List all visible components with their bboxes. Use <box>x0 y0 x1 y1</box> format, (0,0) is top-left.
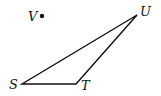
label-u: U <box>140 4 152 19</box>
point-v-dot <box>40 14 44 18</box>
triangle-stu <box>22 15 137 84</box>
label-v: V <box>28 9 39 24</box>
label-t: T <box>81 78 91 93</box>
geometry-diagram: V U S T <box>0 0 161 96</box>
label-s: S <box>9 77 18 92</box>
